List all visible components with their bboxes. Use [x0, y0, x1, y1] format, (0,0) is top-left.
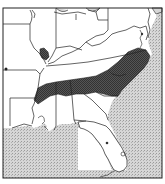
florida-marker	[106, 142, 109, 145]
dc-marker	[141, 33, 143, 35]
kansas-marker	[5, 68, 8, 71]
range-map	[0, 0, 165, 184]
map-svg	[0, 0, 165, 184]
